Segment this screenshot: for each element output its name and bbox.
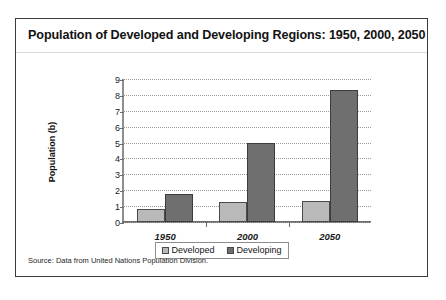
bar-developing-1950[interactable] xyxy=(165,194,193,222)
bar-group-2000: 2000 xyxy=(206,79,288,222)
x-tick-mark xyxy=(206,222,207,227)
bar-group-2050: 2050 xyxy=(289,79,371,222)
figure-card: Population of Developed and Developing R… xyxy=(15,18,428,277)
y-tick-label: 1 xyxy=(115,202,120,212)
y-tick-label: 5 xyxy=(115,139,120,149)
legend-swatch-developed-icon xyxy=(161,247,168,254)
gridline: 0 xyxy=(124,222,371,223)
x-tick-label-2000: 2000 xyxy=(237,231,258,242)
y-tick-label: 0 xyxy=(115,218,120,228)
y-tick-label: 3 xyxy=(115,170,120,180)
y-tick-label: 4 xyxy=(115,154,120,164)
y-tick-mark xyxy=(120,223,124,224)
source-note: Source: Data from United Nations Populat… xyxy=(28,256,208,265)
y-tick-label: 9 xyxy=(115,75,120,85)
bar-developing-2000[interactable] xyxy=(247,143,275,222)
legend-label: Developed xyxy=(171,245,214,255)
y-tick-label: 7 xyxy=(115,107,120,117)
figure-title: Population of Developed and Developing R… xyxy=(28,28,420,42)
legend-item-developed[interactable]: Developed xyxy=(161,245,214,255)
y-axis-title: Population (b) xyxy=(47,97,57,207)
legend-item-developing[interactable]: Developing xyxy=(227,245,282,255)
legend-label: Developing xyxy=(237,245,282,255)
x-tick-mark xyxy=(289,222,290,227)
chart-area: Population (b) 0123456789 195020002050 D… xyxy=(16,53,427,243)
y-tick-label: 8 xyxy=(115,91,120,101)
legend-swatch-developing-icon xyxy=(227,247,234,254)
bar-developed-1950[interactable] xyxy=(137,209,165,222)
x-tick-label-1950: 1950 xyxy=(155,231,176,242)
plot-area: 0123456789 195020002050 xyxy=(122,79,371,222)
bar-group-1950: 1950 xyxy=(124,79,206,222)
x-tick-label-2050: 2050 xyxy=(319,231,340,242)
bar-groups: 195020002050 xyxy=(124,79,371,222)
bar-developing-2050[interactable] xyxy=(330,90,358,222)
bar-developed-2000[interactable] xyxy=(219,202,247,222)
y-tick-label: 6 xyxy=(115,123,120,133)
y-tick-label: 2 xyxy=(115,186,120,196)
bar-developed-2050[interactable] xyxy=(302,201,330,222)
